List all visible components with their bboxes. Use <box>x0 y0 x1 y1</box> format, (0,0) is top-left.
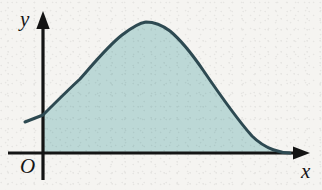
area-under-curve-figure: y O x <box>0 0 322 190</box>
origin-label: O <box>20 156 35 177</box>
y-axis-arrowhead-icon <box>36 11 49 29</box>
shaded-area-under-curve <box>43 22 290 153</box>
x-axis-arrowhead-icon <box>293 147 310 160</box>
x-axis-label: x <box>301 161 310 182</box>
y-axis-label: y <box>20 9 29 30</box>
figure-canvas <box>0 0 322 190</box>
